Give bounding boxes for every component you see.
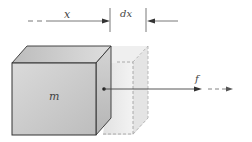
work-diagram: x dx m f [0, 0, 252, 142]
increment-arrowhead-left-icon [147, 19, 155, 24]
dimension-arrowhead-right-icon [102, 19, 110, 24]
block-top-face [12, 46, 111, 63]
displacement-label: x [64, 8, 71, 21]
force-arrowhead-icon [194, 87, 202, 92]
displacement-dimension: x dx [28, 8, 178, 32]
mass-block: m [12, 46, 111, 135]
force-label: f [194, 73, 201, 84]
mass-label: m [49, 90, 59, 103]
force-continuation-arrowhead-icon [226, 87, 233, 92]
increment-label: dx [120, 8, 132, 19]
